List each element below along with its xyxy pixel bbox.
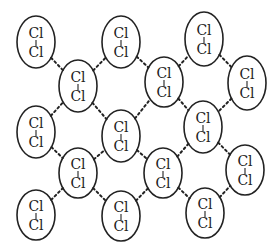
intermolecular-force-link [93, 188, 106, 201]
atom-label-top: Cl [70, 69, 86, 85]
cl2-molecule: ClCl [17, 106, 55, 158]
cl2-molecules: ClClClClClClClClClClClClClClClClClClClCl… [17, 12, 266, 241]
atom-label-bottom: Cl [239, 85, 255, 101]
cl2-molecule: ClCl [17, 16, 55, 68]
atom-label-top: Cl [197, 196, 213, 212]
atom-label-top: Cl [70, 156, 86, 172]
atom-label-bottom: Cl [113, 44, 129, 60]
intermolecular-force-link [219, 55, 231, 67]
intermolecular-force-link [218, 99, 231, 112]
cl2-molecule: ClCl [59, 60, 97, 112]
intermolecular-force-link [136, 188, 148, 200]
intermolecular-force-link [135, 99, 150, 118]
intermolecular-force-link [51, 188, 63, 200]
intermolecular-force-link [137, 57, 149, 68]
cl2-molecule: ClCl [226, 145, 264, 195]
atom-label-bottom: Cl [70, 175, 86, 191]
intermolecular-force-link [218, 143, 230, 155]
atom-label-top: Cl [28, 25, 44, 41]
atom-label-bottom: Cl [196, 41, 212, 57]
atom-label-bottom: Cl [28, 44, 44, 60]
cl2-molecule: ClCl [228, 56, 266, 110]
cl2-molecule: ClCl [186, 188, 224, 238]
intermolecular-force-link [51, 147, 62, 158]
intermolecular-force-link [178, 98, 188, 110]
atom-label-bottom: Cl [156, 84, 172, 100]
atom-label-bottom: Cl [70, 88, 86, 104]
atom-label-top: Cl [196, 22, 212, 38]
atom-label-top: Cl [28, 115, 44, 131]
atom-label-top: Cl [156, 65, 172, 81]
atom-label-bottom: Cl [237, 172, 253, 188]
atom-label-bottom: Cl [113, 138, 129, 154]
intermolecular-force-link [93, 58, 106, 71]
cl2-molecule: ClCl [145, 57, 183, 107]
cl2-molecule: ClCl [102, 191, 140, 241]
intermolecular-force-link [92, 103, 106, 119]
atom-label-top: Cl [237, 153, 253, 169]
atom-label-bottom: Cl [28, 217, 44, 233]
intermolecular-force-link [94, 150, 105, 159]
intermolecular-force-link [179, 55, 189, 66]
intermolecular-force-link [137, 150, 147, 159]
cl2-molecule: ClCl [184, 101, 222, 153]
atom-label-top: Cl [113, 119, 129, 135]
intermolecular-force-link [51, 58, 63, 70]
atom-label-top: Cl [239, 66, 255, 82]
cl2-molecule: ClCl [102, 110, 140, 162]
atom-label-bottom: Cl [28, 134, 44, 150]
cl2-molecule: ClCl [17, 190, 55, 240]
atom-label-bottom: Cl [113, 218, 129, 234]
atom-label-bottom: Cl [155, 175, 171, 191]
atom-label-top: Cl [155, 156, 171, 172]
intermolecular-force-link [178, 188, 189, 199]
chlorine-lattice-diagram: ClClClClClClClClClClClClClClClClClClClCl… [0, 0, 277, 252]
intermolecular-force-link [51, 102, 63, 116]
atom-label-top: Cl [195, 110, 211, 126]
intermolecular-force-link [220, 186, 231, 197]
atom-label-bottom: Cl [197, 215, 213, 231]
atom-label-bottom: Cl [195, 129, 211, 145]
cl2-molecule: ClCl [144, 148, 182, 198]
intermolecular-force-link [177, 144, 188, 157]
cl2-molecule: ClCl [102, 16, 140, 68]
atom-label-top: Cl [113, 25, 129, 41]
cl2-molecule: ClCl [185, 12, 223, 66]
atom-label-top: Cl [113, 199, 129, 215]
cl2-molecule: ClCl [59, 148, 97, 198]
atom-label-top: Cl [28, 198, 44, 214]
